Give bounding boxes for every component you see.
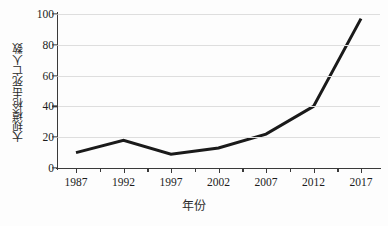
x-axis-tick-mark [76, 168, 77, 173]
y-axis-tick-label: 60 [8, 70, 54, 82]
y-axis-tick-label: 80 [8, 39, 54, 51]
x-axis-minor-tick-mark [195, 168, 196, 172]
x-axis-tick-label: 2017 [331, 176, 388, 188]
x-axis-minor-tick-mark [242, 168, 243, 172]
y-axis-tick-label: 20 [8, 131, 54, 143]
y-axis-tick-mark [52, 13, 58, 14]
x-axis-minor-tick-mark [147, 168, 148, 172]
y-axis-tick-labels: 020406080100 [0, 0, 54, 226]
x-axis-tick-mark [171, 168, 172, 173]
x-axis-tick-mark [219, 168, 220, 173]
x-axis-tick-mark [314, 168, 315, 173]
x-axis-title: 年份 [0, 196, 388, 213]
gridline [57, 76, 380, 77]
y-axis-tick-mark [52, 167, 58, 168]
x-axis-minor-tick-mark [337, 168, 338, 172]
plot-area [57, 14, 380, 168]
gridline [57, 106, 380, 107]
x-axis-tick-mark [266, 168, 267, 173]
y-axis-tick-mark [52, 44, 58, 45]
x-axis-tick-mark [361, 168, 362, 173]
line-series [57, 14, 380, 168]
gridline [57, 45, 380, 46]
x-axis-minor-tick-mark [290, 168, 291, 172]
y-axis-tick-label: 0 [8, 162, 54, 174]
x-axis-tick-mark [124, 168, 125, 173]
y-axis-tick-mark [52, 75, 58, 76]
series-polyline [76, 19, 361, 155]
chart-figure: 大规模枪击死亡人数 020406080100 年份 19871992199720… [0, 0, 388, 226]
gridline [57, 14, 380, 15]
gridline [57, 137, 380, 138]
x-axis-minor-tick-mark [100, 168, 101, 172]
y-axis-tick-mark [52, 106, 58, 107]
y-axis-tick-label: 40 [8, 100, 54, 112]
y-axis-tick-mark [52, 137, 58, 138]
y-axis-tick-label: 100 [8, 8, 54, 20]
